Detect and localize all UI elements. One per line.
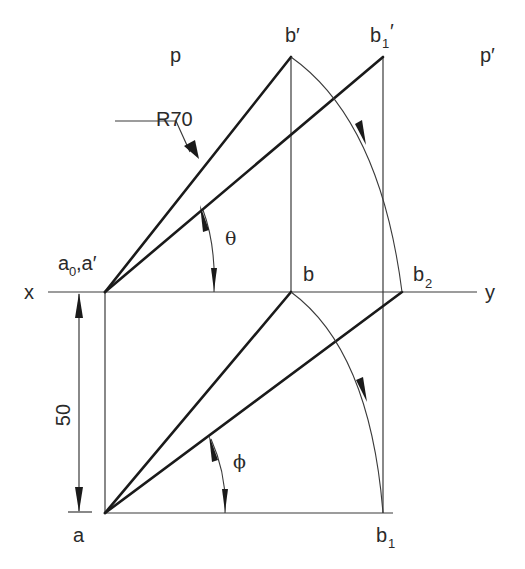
svg-text:2: 2 (425, 276, 432, 291)
arc-b-to-b1 (291, 292, 383, 513)
dimension-arrow-top (75, 293, 83, 318)
label-a0-a-prime: a 0 ,a′ (58, 252, 97, 279)
label-theta: θ (225, 227, 236, 249)
svg-text:′: ′ (390, 20, 394, 42)
svg-text:1: 1 (382, 36, 389, 51)
arc-b-prime-to-b2 (291, 57, 402, 292)
projection-drawing: p p′ b′ b 1 ′ R70 a 0 ,a′ θ ϕ x y b b 2 … (0, 0, 525, 569)
svg-text:,a′: ,a′ (76, 252, 97, 274)
theta-arrow-bottom (211, 268, 217, 291)
phi-arrow-bottom (222, 489, 228, 512)
svg-text:b: b (413, 263, 424, 285)
label-b1-prime: b 1 ′ (370, 20, 394, 51)
label-r70: R70 (156, 108, 193, 130)
label-y: y (485, 281, 495, 303)
label-x: x (24, 281, 34, 303)
line-a-b (105, 292, 291, 513)
phi-arrow-top (209, 435, 218, 462)
line-a-prime-b-prime (105, 57, 291, 292)
label-b1: b 1 (376, 524, 395, 551)
label-phi: ϕ (233, 450, 246, 472)
svg-text:b: b (376, 524, 387, 546)
label-b-prime: b′ (285, 24, 300, 46)
label-b: b (303, 263, 314, 285)
svg-text:1: 1 (388, 536, 395, 551)
label-dimension-50: 50 (52, 404, 74, 426)
line-a-prime-b1-prime (105, 57, 383, 292)
dimension-arrow-bottom (75, 487, 83, 512)
svg-text:b: b (370, 24, 381, 46)
label-p-prime: p′ (480, 44, 495, 66)
line-a-b2 (105, 292, 402, 513)
label-a: a (73, 524, 85, 546)
label-p: p (170, 44, 181, 66)
label-b2: b 2 (413, 263, 432, 291)
